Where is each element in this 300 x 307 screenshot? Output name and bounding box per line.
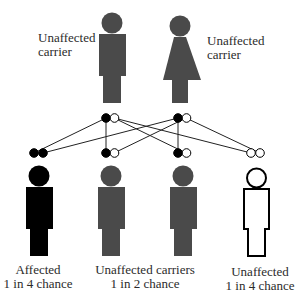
unaffected-caption: Unaffected 1 in 4 chance (220, 265, 300, 293)
normal-allele-icon (256, 149, 265, 158)
inheritance-lines (34, 118, 260, 153)
recessive-allele-icon (30, 149, 39, 158)
father-label-line2: carrier (38, 45, 96, 59)
child-3-alleles (174, 149, 191, 158)
carriers-caption: Unaffected carriers 1 in 2 chance (90, 263, 200, 291)
affected-child-figure-icon (26, 166, 53, 257)
caption-line1: Unaffected (220, 265, 300, 279)
recessive-allele-icon (174, 114, 183, 123)
child-1-alleles (30, 149, 48, 158)
child-4-alleles (247, 149, 265, 158)
caption-line2: 1 in 2 chance (90, 277, 200, 291)
mother-label-line2: carrier (207, 48, 265, 62)
caption-line2: 1 in 4 chance (0, 277, 76, 291)
mother-alleles (174, 114, 191, 123)
caption-line1: Unaffected carriers (90, 263, 200, 277)
father-label-line1: Unaffected (38, 31, 96, 45)
normal-allele-icon (247, 149, 256, 158)
normal-allele-icon (110, 149, 119, 158)
carrier-child-figure-icon (170, 166, 197, 257)
recessive-allele-icon (174, 149, 183, 158)
caption-line1: Affected (0, 263, 76, 277)
recessive-allele-icon (39, 149, 48, 158)
father-label: Unaffected carrier (38, 31, 96, 59)
normal-allele-icon (182, 114, 191, 123)
normal-allele-icon (110, 114, 119, 123)
affected-caption: Affected 1 in 4 chance (0, 263, 76, 291)
carrier-child-figure-icon (98, 166, 125, 257)
unaffected-child-figure-icon (244, 169, 269, 257)
recessive-allele-icon (102, 149, 111, 158)
father-alleles (102, 114, 119, 123)
caption-line2: 1 in 4 chance (220, 279, 300, 293)
child-2-alleles (102, 149, 119, 158)
mother-label-line1: Unaffected (207, 34, 265, 48)
father-figure-icon (99, 13, 126, 104)
inheritance-diagram: Unaffected carrier Unaffected carrier Af… (0, 0, 300, 307)
mother-figure-icon (163, 16, 201, 104)
mother-label: Unaffected carrier (207, 34, 265, 62)
recessive-allele-icon (102, 114, 111, 123)
normal-allele-icon (182, 149, 191, 158)
